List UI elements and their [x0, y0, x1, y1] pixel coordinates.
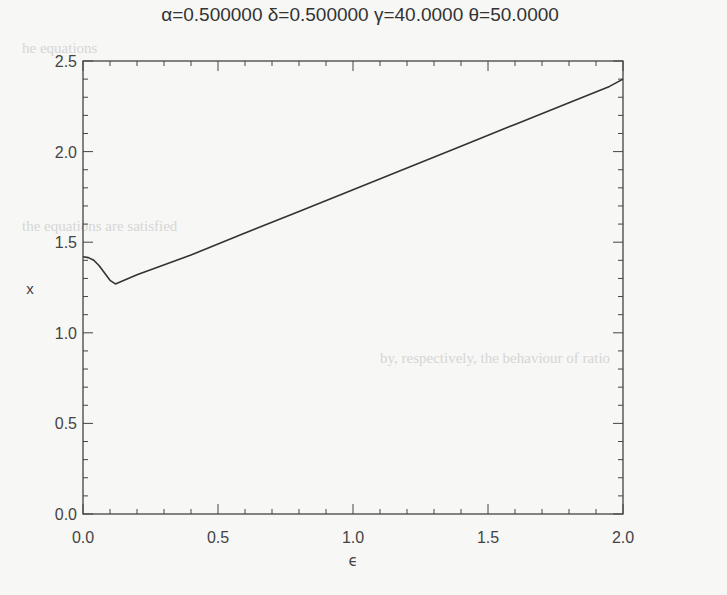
plot-frame [83, 61, 623, 514]
data-line [83, 79, 623, 284]
y-tick-label: 0.0 [55, 506, 77, 523]
line-chart: 0.00.51.01.52.00.00.51.01.52.02.5ϵx [0, 0, 727, 595]
x-tick-label: 0.0 [72, 529, 94, 546]
x-tick-label: 1.5 [477, 529, 499, 546]
y-tick-label: 1.5 [55, 234, 77, 251]
x-axis-label: ϵ [348, 552, 357, 570]
x-tick-label: 1.0 [342, 529, 364, 546]
y-axis-label: x [26, 280, 34, 297]
y-tick-label: 0.5 [55, 415, 77, 432]
y-tick-label: 2.0 [55, 144, 77, 161]
x-tick-label: 2.0 [612, 529, 634, 546]
y-tick-label: 1.0 [55, 325, 77, 342]
x-tick-label: 0.5 [207, 529, 229, 546]
y-tick-label: 2.5 [55, 53, 77, 70]
